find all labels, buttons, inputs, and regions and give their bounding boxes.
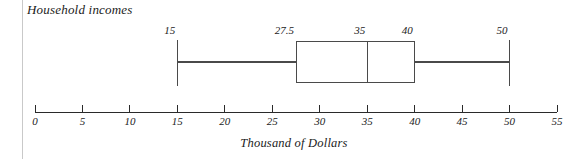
x-axis-tick-label: 20 bbox=[219, 115, 230, 127]
value-label-q3: 40 bbox=[402, 24, 413, 36]
x-axis-tick-label: 25 bbox=[267, 115, 278, 127]
x-axis-tick bbox=[177, 105, 178, 112]
x-axis-label: Thousand of Dollars bbox=[0, 136, 588, 151]
x-axis-tick-label: 10 bbox=[124, 115, 135, 127]
x-axis-tick bbox=[272, 105, 273, 112]
value-label-q1: 27.5 bbox=[275, 24, 294, 36]
x-axis-tick-label: 50 bbox=[504, 115, 515, 127]
min-whisker-cap bbox=[177, 40, 178, 86]
x-axis-tick bbox=[82, 105, 83, 112]
x-axis-tick-label: 30 bbox=[314, 115, 325, 127]
x-axis-tick-label: 55 bbox=[552, 115, 563, 127]
x-axis-tick bbox=[557, 105, 558, 112]
x-axis-tick bbox=[414, 105, 415, 112]
value-label-min: 15 bbox=[164, 24, 175, 36]
x-axis-line bbox=[35, 112, 557, 113]
boxplot-figure: Household incomes 0510152025303540455055… bbox=[0, 0, 588, 159]
x-axis-tick bbox=[224, 105, 225, 112]
x-axis-tick-label: 0 bbox=[32, 115, 38, 127]
right-whisker-line bbox=[415, 61, 510, 62]
x-axis-tick-label: 45 bbox=[457, 115, 468, 127]
interquartile-box bbox=[296, 41, 415, 83]
left-whisker-line bbox=[177, 61, 296, 62]
x-axis-tick-label: 40 bbox=[409, 115, 420, 127]
x-axis-tick bbox=[367, 105, 368, 112]
x-axis-tick-label: 5 bbox=[80, 115, 86, 127]
median-line bbox=[367, 41, 368, 83]
x-axis-tick bbox=[509, 105, 510, 112]
x-axis-tick bbox=[319, 105, 320, 112]
x-axis-tick bbox=[462, 105, 463, 112]
x-axis-tick bbox=[35, 105, 36, 112]
max-whisker-cap bbox=[509, 40, 510, 86]
x-axis-tick-label: 15 bbox=[172, 115, 183, 127]
value-label-max: 50 bbox=[497, 24, 508, 36]
value-label-median: 35 bbox=[354, 24, 365, 36]
x-axis-tick bbox=[129, 105, 130, 112]
x-axis-tick-label: 35 bbox=[362, 115, 373, 127]
